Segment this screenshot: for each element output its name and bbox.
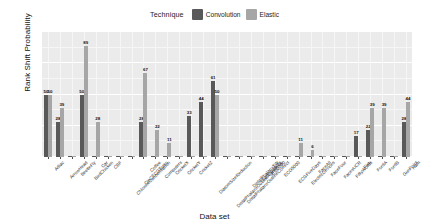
bar-group[interactable] (221, 32, 233, 157)
bar[interactable]: 39 (370, 108, 374, 157)
bar[interactable]: 11 (167, 143, 171, 157)
bar-group[interactable] (257, 32, 269, 157)
bar-value-label: 28 (95, 117, 100, 121)
x-tick-mark (167, 157, 168, 159)
x-tick-mark (60, 157, 61, 159)
x-tick-mark (370, 157, 371, 159)
x-tick-mark (394, 157, 395, 159)
bar[interactable]: 28 (96, 122, 100, 157)
x-tick-mark (227, 157, 228, 159)
x-tick-mark (143, 157, 144, 159)
x-tick-mark (48, 157, 49, 159)
bar-series-layer: 5050283950892828672211334461501161722393… (42, 32, 412, 157)
bar[interactable]: 67 (143, 73, 147, 157)
y-axis-label: Rank Shift Probability (23, 0, 32, 128)
x-tick-mark (191, 157, 192, 159)
x-tick-mark (322, 157, 323, 159)
bar-group[interactable] (328, 32, 340, 157)
bar-value-label: 50 (47, 90, 52, 94)
bar-group[interactable] (173, 32, 185, 157)
bar-group[interactable]: 2239 (364, 32, 376, 157)
x-tick-mark (275, 157, 276, 159)
bar-group[interactable]: 5089 (78, 32, 90, 157)
bar-group[interactable]: 33 (185, 32, 197, 157)
x-tick-mark (406, 157, 407, 159)
x-tick-mark (287, 157, 288, 159)
bar-group[interactable] (317, 32, 329, 157)
bar-group[interactable]: 28 (90, 32, 102, 157)
rank-shift-probability-chart: Technique Convolution Elastic Rank Shift… (0, 0, 429, 223)
bar-group[interactable] (245, 32, 257, 157)
bar-group[interactable] (66, 32, 78, 157)
bar-group[interactable] (114, 32, 126, 157)
bar-value-label: 39 (370, 103, 375, 107)
x-tick-mark (346, 157, 347, 159)
x-tick-mark (334, 157, 335, 159)
bar[interactable]: 22 (155, 130, 159, 158)
bar-group[interactable]: 17 (352, 32, 364, 157)
x-tick-mark (203, 157, 204, 159)
x-tick-label: CBF (112, 160, 122, 170)
bar-value-label: 50 (215, 90, 220, 94)
bar-group[interactable]: 11 (161, 32, 173, 157)
x-tick-mark (263, 157, 264, 159)
bar-value-label: 11 (167, 138, 172, 142)
bar-group[interactable] (102, 32, 114, 157)
bar[interactable]: 6 (311, 150, 315, 158)
bar[interactable]: 89 (84, 46, 88, 157)
bar-group[interactable]: 11 (293, 32, 305, 157)
bar-value-label: 33 (187, 111, 192, 115)
bar[interactable]: 44 (406, 102, 410, 157)
bar-group[interactable] (126, 32, 138, 157)
bar-value-label: 39 (382, 103, 387, 107)
x-tick-mark (311, 157, 312, 159)
bar-group[interactable]: 2839 (54, 32, 66, 157)
bar[interactable]: 44 (199, 102, 203, 157)
bar[interactable]: 50 (48, 95, 52, 158)
bar-group[interactable] (340, 32, 352, 157)
bar-group[interactable] (388, 32, 400, 157)
x-tick-label: FordA (376, 160, 388, 172)
bar-group[interactable]: 39 (376, 32, 388, 157)
x-tick-mark (179, 157, 180, 159)
legend-item-convolution: Convolution (192, 9, 241, 20)
bar-group[interactable]: 5050 (42, 32, 54, 157)
bar-group[interactable]: 6150 (209, 32, 221, 157)
bar-group[interactable] (281, 32, 293, 157)
bar-value-label: 17 (354, 131, 359, 135)
x-tick-label: FordB (388, 160, 400, 172)
bar-group[interactable]: 2844 (400, 32, 412, 157)
x-tick-mark (239, 157, 240, 159)
bar-value-label: 6 (311, 145, 313, 149)
bar[interactable]: 39 (60, 108, 64, 157)
bar-value-label: 61 (211, 76, 216, 80)
x-tick-mark (132, 157, 133, 159)
legend-item-elastic: Elastic (246, 9, 279, 20)
bar[interactable]: 11 (299, 143, 303, 157)
x-axis-label: Data set (0, 212, 429, 221)
bar-group[interactable]: 6 (305, 32, 317, 157)
bar-group[interactable]: 2867 (137, 32, 149, 157)
bar-value-label: 11 (298, 138, 303, 142)
plot-panel: 0255075100 50502839508928286722113344615… (42, 32, 412, 157)
bar-group[interactable] (269, 32, 281, 157)
x-tick-mark (215, 157, 216, 159)
x-tick-label: DiatomSizeReduction (218, 160, 253, 195)
x-tick-mark (120, 157, 121, 159)
bar[interactable]: 33 (187, 116, 191, 157)
x-tick-mark (358, 157, 359, 159)
bar[interactable]: 17 (354, 136, 358, 157)
bar-group[interactable]: 22 (149, 32, 161, 157)
bar[interactable]: 39 (382, 108, 386, 157)
legend-swatch-convolution (192, 9, 203, 20)
bar-value-label: 67 (143, 68, 148, 72)
bar-value-label: 39 (59, 103, 64, 107)
x-tick-label: Adiac (53, 160, 65, 172)
x-tick-mark (251, 157, 252, 159)
x-tick-mark (96, 157, 97, 159)
x-tick-mark (108, 157, 109, 159)
legend-swatch-elastic (246, 9, 257, 20)
bar[interactable]: 50 (215, 95, 219, 158)
bar-group[interactable] (233, 32, 245, 157)
bar-group[interactable]: 44 (197, 32, 209, 157)
